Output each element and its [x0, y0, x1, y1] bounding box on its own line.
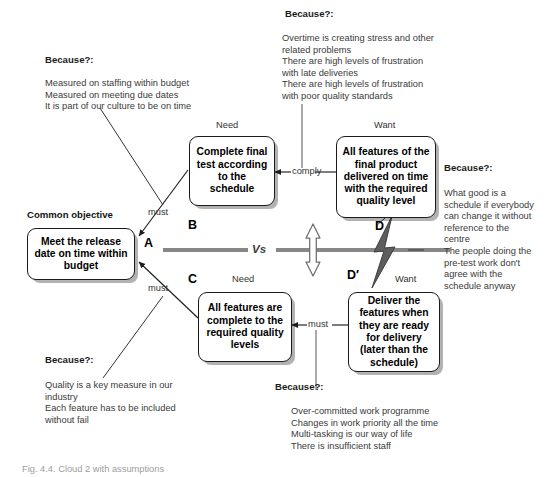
entity-c-letter: C — [188, 272, 197, 286]
assumption-dprime-text: Over-committed work programme Changes in… — [291, 406, 541, 452]
connector-label-a-c: must — [148, 283, 168, 293]
connector-label-b-d: comply — [292, 166, 321, 176]
vs-label: Vs — [252, 243, 266, 255]
entity-d-text: All features of the final product delive… — [342, 146, 430, 207]
assumption-c-text: Quality is a key measure in our industry… — [45, 380, 275, 426]
connector-label-a-b: must — [148, 207, 168, 217]
entity-a-heading: Common objective — [27, 209, 113, 220]
figure-caption: Fig. 4.4. Cloud 2 with assumptions — [22, 464, 164, 474]
assumption-line-c — [103, 296, 163, 378]
entity-box-dprime[interactable]: Deliver the features when they are ready… — [348, 292, 440, 372]
entity-dprime-text: Deliver the features when they are ready… — [354, 295, 434, 369]
entity-box-c[interactable]: All features are complete to the require… — [198, 292, 292, 362]
entity-box-d[interactable]: All features of the final product delive… — [336, 136, 436, 218]
double-headed-conflict-arrow — [306, 224, 320, 276]
entity-d-letter: D — [375, 219, 384, 233]
assumption-d-conflict-header: Because?: — [444, 162, 493, 173]
assumption-dprime-header: Because?: — [275, 381, 324, 392]
assumption-c-header: Because?: — [45, 354, 94, 365]
entity-a-letter: A — [144, 236, 153, 250]
assumption-b-text: Measured on staffing within budget Measu… — [45, 78, 275, 113]
assumption-b-header: Because?: — [45, 54, 94, 65]
entity-c-text: All features are complete to the require… — [204, 302, 286, 351]
entity-c-heading: Need — [232, 274, 254, 284]
assumption-line-b — [100, 108, 163, 205]
entity-d-heading: Want — [374, 120, 395, 130]
assumption-d-text: Overtime is creating stress and other re… — [282, 33, 492, 103]
cloud-diagram-canvas: Common objective Meet the release date o… — [0, 0, 551, 477]
entity-b-letter: B — [188, 218, 197, 232]
entity-dprime-heading: Want — [395, 274, 416, 284]
entity-a-text: Meet the release date on time within bud… — [33, 236, 129, 273]
connector-b-to-a — [139, 170, 188, 236]
entity-dprime-letter: D′ — [347, 268, 359, 282]
assumption-d-conflict-text: What good is a schedule if everybody can… — [444, 188, 550, 292]
assumption-d-header: Because?: — [285, 8, 334, 19]
connector-label-c-dprime: must — [308, 319, 328, 329]
entity-b-text: Complete final test according to the sch… — [195, 146, 269, 195]
entity-box-a[interactable]: Meet the release date on time within bud… — [27, 228, 135, 280]
entity-box-b[interactable]: Complete final test according to the sch… — [189, 136, 275, 206]
entity-b-heading: Need — [216, 120, 238, 130]
